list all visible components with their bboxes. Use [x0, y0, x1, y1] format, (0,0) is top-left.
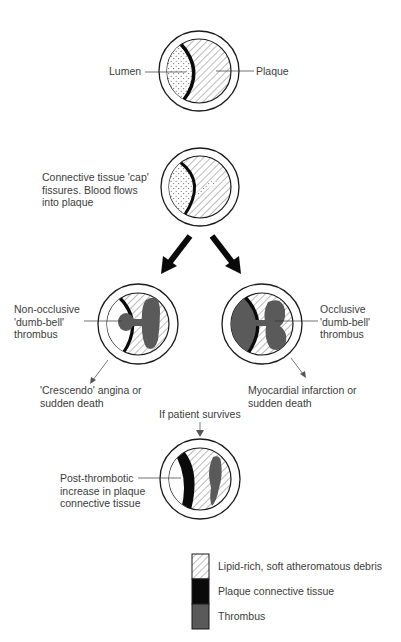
stage1-cross-section [145, 31, 254, 111]
post-thrombotic-line-3: connective tissue [60, 497, 145, 510]
post-thrombotic-label: Post-thrombotic increase in plaque conne… [60, 472, 145, 510]
non-occlusive-outcome-line-2: sudden death [40, 397, 142, 410]
fissure-caption-line-2: fissures. Blood flows [42, 184, 149, 197]
legend-swatch-lipid [192, 554, 209, 579]
stage3-non-occlusive-cross-section [84, 284, 178, 384]
non-occlusive-thrombus-label: Non-occlusive 'dumb-bell' thrombus [14, 303, 80, 341]
non-occlusive-line-1: Non-occlusive [14, 303, 80, 316]
fissure-caption-line-3: into plaque [42, 196, 149, 209]
if-patient-survives-label: If patient survives [159, 408, 241, 421]
occlusive-outcome: Myocardial infarction or sudden death [248, 384, 357, 409]
lumen-label: Lumen [109, 65, 141, 78]
stage2-cross-section [160, 148, 239, 226]
occlusive-line-1: Occlusive [320, 303, 370, 316]
non-occlusive-outcome-line-1: 'Crescendo' angina or [40, 384, 142, 397]
occlusive-line-2: 'dumb-bell' [320, 316, 370, 329]
legend-label-lipid: Lipid-rich, soft atheromatous debris [218, 560, 382, 572]
thrombus-plaque-part [142, 298, 160, 349]
occlusive-outcome-line-2: sudden death [248, 397, 357, 410]
outcome-arrow-right [300, 371, 306, 378]
legend-swatch-thrombus [192, 604, 209, 629]
survival-arrow [196, 422, 204, 437]
occlusive-thrombus-label: Occlusive 'dumb-bell' thrombus [320, 303, 370, 341]
post-thrombotic-line-1: Post-thrombotic [60, 472, 145, 485]
stage3-occlusive-cross-section [222, 284, 318, 378]
non-occlusive-line-3: thrombus [14, 328, 80, 341]
occlusive-outcome-line-1: Myocardial infarction or [248, 384, 357, 397]
non-occlusive-outcome: 'Crescendo' angina or sudden death [40, 384, 142, 409]
arrow-to-non-occlusive [161, 236, 190, 274]
stage4-post-thrombotic-cross-section [138, 439, 240, 519]
post-thrombotic-line-2: increase in plaque [60, 485, 145, 498]
legend-label-connective-tissue: Plaque connective tissue [218, 585, 334, 597]
outcome-arrow-left [90, 377, 96, 384]
fissure-caption: Connective tissue 'cap' fissures. Blood … [42, 171, 149, 209]
fissure-caption-line-1: Connective tissue 'cap' [42, 171, 149, 184]
occlusive-line-3: thrombus [320, 328, 370, 341]
plaque-label: Plaque [256, 65, 289, 78]
legend-swatch-connective-tissue [192, 579, 209, 604]
arrow-to-occlusive [212, 236, 241, 274]
legend-swatches [192, 554, 209, 629]
legend-label-thrombus: Thrombus [218, 610, 265, 622]
non-occlusive-line-2: 'dumb-bell' [14, 316, 80, 329]
